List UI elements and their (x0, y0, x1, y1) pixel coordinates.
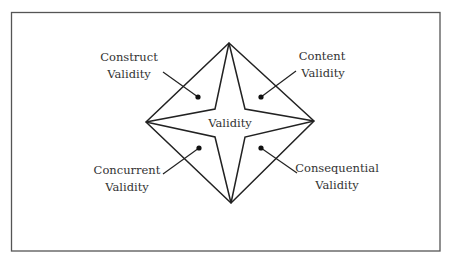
concurrent-label-line1: Concurrent (94, 163, 161, 177)
construct-label-line1: Construct (100, 50, 158, 64)
label-construct-validity: Construct Validity (100, 50, 200, 100)
center-label: Validity (207, 116, 252, 130)
label-concurrent-validity: Concurrent Validity (94, 145, 202, 194)
construct-leader-line (163, 72, 198, 97)
label-content-validity: Content Validity (258, 49, 345, 100)
content-label-line1: Content (299, 49, 346, 63)
diagram-frame (12, 13, 441, 252)
consequential-dot (258, 145, 263, 150)
content-dot (258, 94, 263, 99)
consequential-label-line1: Consequential (295, 161, 379, 175)
construct-label-line2: Validity (106, 67, 151, 81)
label-consequential-validity: Consequential Validity (258, 145, 379, 192)
content-label-line2: Validity (300, 66, 345, 80)
consequential-label-line2: Validity (314, 178, 359, 192)
construct-dot (195, 94, 200, 99)
concurrent-label-line2: Validity (104, 180, 149, 194)
concurrent-dot (196, 145, 201, 150)
consequential-leader-line (261, 148, 297, 173)
concurrent-leader-line (163, 148, 199, 174)
content-leader-line (261, 71, 296, 97)
validity-diagram: Validity Construct Validity Content Vali… (0, 0, 451, 263)
